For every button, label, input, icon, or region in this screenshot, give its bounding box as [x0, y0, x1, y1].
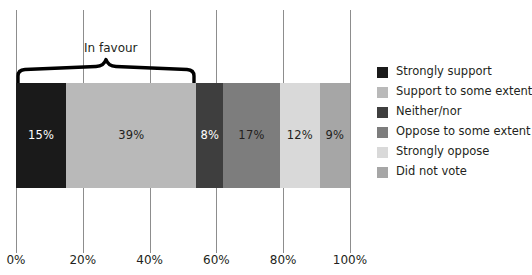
x-tick-label-3: 60%: [203, 254, 230, 266]
bar-segment-value-2: 8%: [200, 130, 219, 142]
x-tick-5: [350, 245, 351, 253]
bar-segment-0: 15%: [16, 83, 66, 188]
legend-swatch-icon-2: [377, 107, 388, 118]
legend-swatch-icon-1: [377, 87, 388, 98]
x-tick-4: [283, 245, 284, 253]
chart-legend: Strongly supportSupport to some extentNe…: [377, 62, 527, 182]
bar-segment-value-0: 15%: [28, 130, 54, 142]
bar-segment-5: 9%: [320, 83, 350, 188]
legend-swatch-icon-5: [377, 167, 388, 178]
in-favour-label: In favour: [84, 42, 138, 54]
x-tick-0: [16, 245, 17, 253]
bar-segment-value-1: 39%: [118, 130, 144, 142]
legend-label-5: Did not vote: [396, 166, 467, 178]
legend-item-0: Strongly support: [377, 62, 527, 82]
legend-item-2: Neither/nor: [377, 102, 527, 122]
bar-segment-3: 17%: [223, 83, 280, 188]
legend-item-1: Support to some extent: [377, 82, 527, 102]
x-tick-label-5: 100%: [333, 254, 367, 266]
x-tick-label-2: 40%: [136, 254, 163, 266]
x-tick-3: [216, 245, 217, 253]
legend-label-0: Strongly support: [396, 66, 492, 78]
bar-segment-value-3: 17%: [238, 130, 264, 142]
legend-label-1: Support to some extent: [396, 86, 532, 98]
x-tick-1: [83, 245, 84, 253]
bar-segment-value-4: 12%: [287, 130, 313, 142]
in-favour-brace: [16, 57, 196, 84]
legend-label-4: Strongly oppose: [396, 146, 489, 158]
legend-item-4: Strongly oppose: [377, 142, 527, 162]
x-tick-label-4: 80%: [270, 254, 297, 266]
bar-segment-2: 8%: [196, 83, 223, 188]
legend-label-2: Neither/nor: [396, 106, 461, 118]
x-tick-label-1: 20%: [69, 254, 96, 266]
x-tick-2: [150, 245, 151, 253]
legend-label-3: Oppose to some extent: [396, 126, 531, 138]
x-tick-label-0: 0%: [6, 254, 25, 266]
bar-segment-value-5: 9%: [326, 130, 345, 142]
legend-swatch-icon-0: [377, 67, 388, 78]
bar-segment-1: 39%: [66, 83, 196, 188]
legend-item-3: Oppose to some extent: [377, 122, 527, 142]
legend-swatch-icon-3: [377, 127, 388, 138]
gridline-100pct: [350, 10, 351, 245]
legend-swatch-icon-4: [377, 147, 388, 158]
bar-segment-4: 12%: [280, 83, 320, 188]
stacked-bar: 15%39%8%17%12%9%: [16, 83, 350, 188]
legend-item-5: Did not vote: [377, 162, 527, 182]
